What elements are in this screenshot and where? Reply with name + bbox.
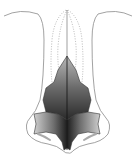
- nostril-left: [38, 134, 50, 140]
- nose-illustration: [0, 0, 139, 165]
- nose-diagram: [0, 0, 139, 165]
- lower-cartilage-right: [67, 112, 100, 150]
- nostril-right: [84, 134, 96, 140]
